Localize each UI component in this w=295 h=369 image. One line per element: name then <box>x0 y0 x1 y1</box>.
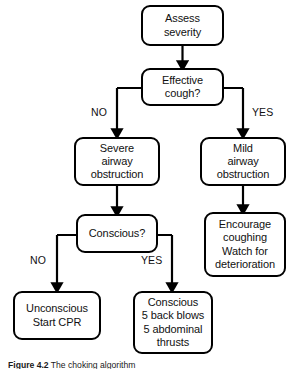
node-conscious-question[interactable]: Conscious? <box>76 214 158 253</box>
node-conscious-treatment[interactable]: Conscious 5 back blows 5 abdominal thrus… <box>133 291 213 354</box>
node-encourage-coughing[interactable]: Encourage coughing Watch for deteriorati… <box>204 212 286 277</box>
node-severe-airway-obstruction[interactable]: Severe airway obstruction <box>74 137 160 186</box>
node-mild-airway-obstruction[interactable]: Mild airway obstruction <box>200 137 286 186</box>
figure-caption-text: The choking algorithm <box>51 360 136 369</box>
node-assess-severity[interactable]: Assess severity <box>141 5 224 46</box>
figure-container: Assess severity Effective cough? NO YES … <box>0 0 295 369</box>
figure-caption-label: Figure 4.2 <box>8 360 49 369</box>
figure-caption: Figure 4.2 The choking algorithm <box>8 360 293 369</box>
edge-label-conscious-yes: YES <box>141 255 162 266</box>
node-unconscious-start-cpr[interactable]: Unconscious Start CPR <box>13 291 101 340</box>
edge-label-cough-yes: YES <box>252 107 273 118</box>
node-effective-cough[interactable]: Effective cough? <box>141 68 224 106</box>
edge-label-conscious-no: NO <box>30 255 46 266</box>
edge-label-cough-no: NO <box>91 107 107 118</box>
